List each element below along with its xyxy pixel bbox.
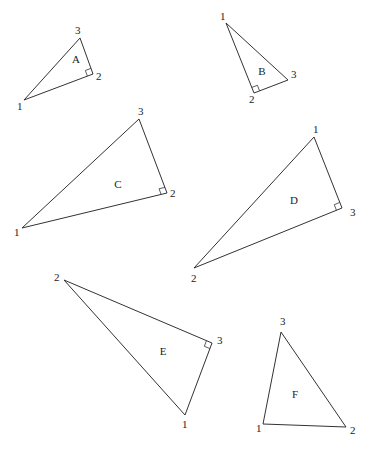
- vertex-label: 3: [217, 334, 223, 346]
- vertex-label: 1: [256, 422, 262, 434]
- triangle-c: 123C: [14, 105, 176, 238]
- triangle-name-label: C: [114, 178, 121, 190]
- vertex-label: 3: [75, 24, 81, 36]
- triangle-e: 123E: [54, 271, 223, 430]
- vertex-label: 1: [182, 418, 188, 430]
- triangle-outline: [194, 137, 342, 268]
- triangle-f: 123F: [256, 315, 356, 436]
- triangle-outline: [22, 119, 167, 228]
- vertex-label: 3: [350, 206, 356, 218]
- triangle-outline: [226, 23, 288, 93]
- vertex-label: 2: [249, 93, 255, 105]
- triangle-b: 123B: [220, 10, 297, 105]
- triangle-name-label: F: [292, 388, 298, 400]
- triangle-name-label: B: [258, 65, 265, 77]
- vertex-label: 2: [350, 424, 356, 436]
- diagram-canvas: 123A123B123C123D123E123F: [0, 0, 373, 449]
- triangle-name-label: D: [290, 194, 298, 206]
- vertex-label: 1: [313, 123, 319, 135]
- vertex-label: 3: [280, 315, 286, 327]
- triangle-name-label: A: [72, 53, 80, 65]
- vertex-label: 1: [14, 226, 20, 238]
- triangle-a: 123A: [17, 24, 102, 112]
- triangle-name-label: E: [160, 345, 167, 357]
- triangle-outline: [64, 280, 212, 415]
- triangle-d: 123D: [191, 123, 356, 284]
- triangle-outline: [263, 332, 346, 427]
- vertex-label: 2: [170, 187, 176, 199]
- vertex-label: 2: [96, 70, 102, 82]
- vertex-label: 3: [138, 105, 144, 117]
- triangle-outline: [24, 38, 93, 100]
- vertex-label: 1: [220, 10, 226, 22]
- vertex-label: 3: [291, 68, 297, 80]
- vertex-label: 2: [54, 271, 60, 283]
- triangle-diagram: 123A123B123C123D123E123F: [0, 0, 373, 449]
- vertex-label: 2: [191, 272, 197, 284]
- vertex-label: 1: [17, 100, 23, 112]
